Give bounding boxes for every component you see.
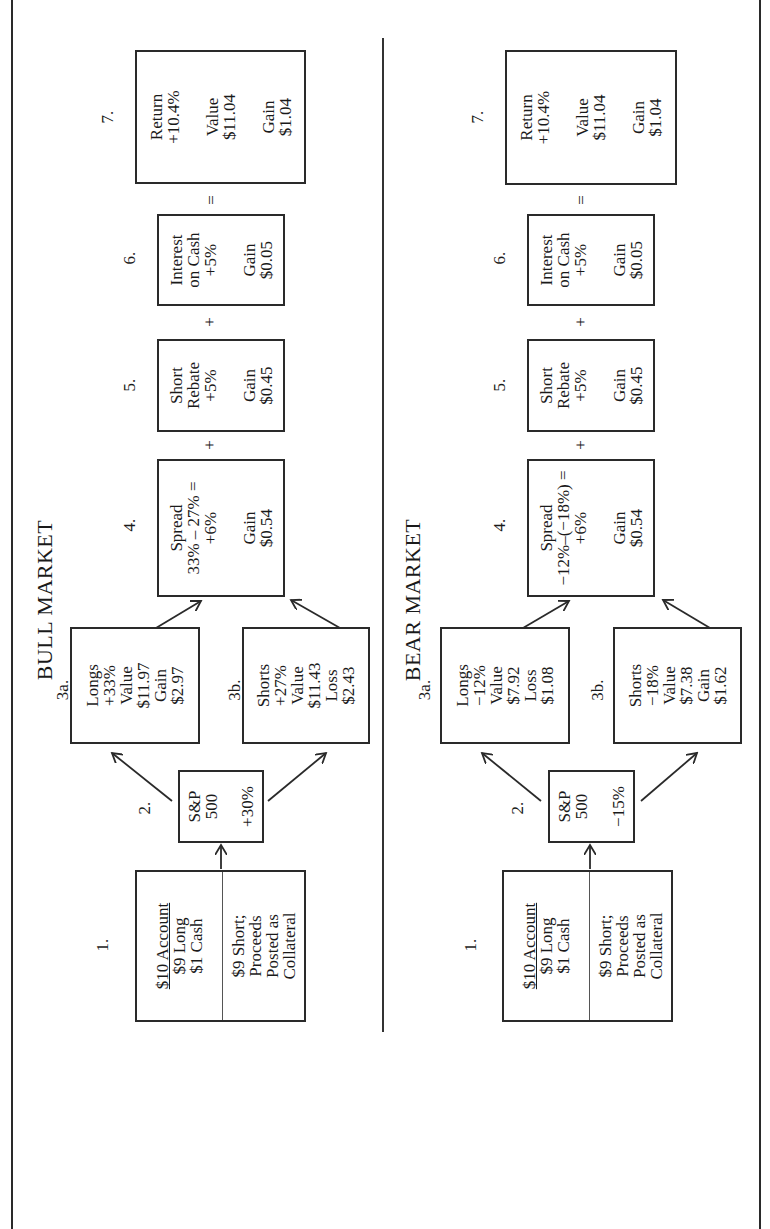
- interest-box: Interest on Cash +5% Gain $0.05: [527, 214, 655, 306]
- return-box: Return +10.4% Value $11.04 Gain $1.04: [135, 50, 306, 184]
- account-box-bottom: $9 Short; Proceeds Posted as Collateral: [590, 872, 671, 1020]
- equals-operator: =: [572, 195, 592, 205]
- step-1-label: 1.: [93, 939, 113, 952]
- step-3b-label: 3b.: [588, 679, 608, 700]
- rebate-result: Gain: [611, 369, 628, 402]
- account-line: Posted as: [264, 914, 281, 978]
- account-line: Collateral: [281, 912, 298, 979]
- shorts-line: $11.43: [306, 662, 323, 708]
- sp500-name: 500: [203, 790, 220, 822]
- short-rebate-box: Short Rebate +5% Gain $0.45: [527, 339, 655, 432]
- interest-line: on Cash: [555, 232, 572, 287]
- account-line: Posted as: [631, 914, 648, 978]
- rebate-line: Rebate: [555, 362, 572, 409]
- shorts-line: −18%: [644, 665, 661, 706]
- spread-box: Spread 33% – 27% = +6% Gain $0.54: [157, 459, 285, 597]
- rebate-line: +5%: [572, 369, 589, 401]
- interest-result: Gain: [611, 243, 628, 276]
- interest-line: Interest: [538, 235, 555, 286]
- arrow-icon: [482, 753, 541, 801]
- panel-title: BEAR MARKET: [400, 519, 426, 682]
- account-line: $1 Cash: [188, 918, 205, 973]
- return-line: +10.4%: [535, 91, 552, 145]
- spread-line: Spread: [168, 504, 185, 551]
- spread-result: $0.54: [258, 509, 275, 547]
- arrow-icon: [641, 753, 697, 801]
- step-3a-label: 3a.: [415, 680, 435, 700]
- shorts-line: Value: [289, 666, 306, 705]
- step-4-label: 4.: [490, 519, 510, 532]
- shorts-line: Value: [661, 666, 678, 705]
- spread-result: $0.54: [628, 509, 645, 547]
- return-gain: $1.04: [647, 98, 664, 136]
- arrow-icon: [268, 753, 326, 801]
- longs-line: −12%: [471, 665, 488, 706]
- longs-line: Gain: [152, 669, 169, 702]
- interest-line: Interest: [168, 235, 185, 286]
- return-value: Value: [574, 98, 591, 137]
- step-1-label: 1.: [461, 939, 481, 952]
- shorts-box: Shorts −18% Value $7.38 Gain $1.62: [613, 627, 742, 744]
- rebate-result: $0.45: [258, 366, 275, 404]
- longs-line: Longs: [84, 664, 101, 707]
- frame-border-bottom: [759, 0, 761, 1229]
- sp500-name: 500: [573, 790, 590, 822]
- spread-result: Gain: [611, 511, 628, 544]
- step-6-label: 6.: [490, 252, 510, 265]
- return-gain: Gain: [630, 101, 647, 134]
- rebate-line: Rebate: [185, 362, 202, 409]
- interest-line: +5%: [572, 244, 589, 276]
- plus-operator: +: [571, 440, 591, 450]
- return-box: Return +10.4% Value $11.04 Gain $1.04: [505, 50, 677, 185]
- arrow-icon: [663, 600, 710, 628]
- frame-border-top: [11, 0, 13, 1229]
- account-box-top: $10 Account $9 Long $1 Cash: [137, 872, 223, 1020]
- interest-line: on Cash: [185, 232, 202, 287]
- longs-line: Value: [118, 666, 135, 705]
- spread-line: +6%: [572, 512, 589, 544]
- arrow-icon: [156, 601, 201, 628]
- spread-line: Spread: [538, 504, 555, 551]
- account-box: $10 Account $9 Long $1 Cash $9 Short; Pr…: [135, 870, 306, 1022]
- longs-line: $1.08: [539, 666, 556, 704]
- diagram-stage: BULL MARKET 1. $10 Account $9 Long $1 Ca…: [0, 0, 770, 1229]
- arrow-icon: [112, 753, 172, 801]
- shorts-line: $7.38: [678, 666, 695, 704]
- arrow-icon: [291, 600, 340, 628]
- shorts-line: +27%: [272, 665, 289, 706]
- return-value: Value: [204, 98, 221, 137]
- sp500-name: S&P: [556, 790, 573, 822]
- account-line: $9 Short;: [597, 915, 614, 978]
- longs-line: Loss: [522, 669, 539, 701]
- sp500-name: S&P: [186, 790, 203, 822]
- account-line: $9 Long: [538, 917, 555, 974]
- rebate-line: Short: [168, 367, 185, 404]
- longs-line: $7.92: [505, 666, 522, 704]
- account-line: $9 Long: [171, 917, 188, 974]
- equals-operator: =: [202, 195, 222, 205]
- longs-line: $2.97: [169, 666, 186, 704]
- spread-line: −12%–(−18%) =: [555, 470, 572, 585]
- rebate-line: Short: [538, 367, 555, 404]
- longs-line: $11.97: [135, 662, 152, 708]
- sp500-change: +30%: [239, 786, 256, 827]
- shorts-box: Shorts +27% Value $11.43 Loss $2.43: [242, 627, 370, 744]
- account-heading: $10 Account: [521, 903, 538, 989]
- shorts-line: $1.62: [712, 666, 729, 704]
- step-2-label: 2.: [135, 802, 155, 815]
- account-line: Collateral: [648, 912, 665, 979]
- arrow-icon: [523, 601, 569, 628]
- rebate-result: Gain: [241, 369, 258, 402]
- step-7-label: 7.: [468, 111, 488, 124]
- return-gain: Gain: [260, 100, 277, 133]
- return-gain: $1.04: [277, 98, 294, 136]
- shorts-line: Shorts: [627, 664, 644, 707]
- longs-box: Longs −12% Value $7.92 Loss $1.08: [440, 627, 570, 744]
- plus-operator: +: [200, 440, 220, 450]
- interest-result: $0.05: [258, 241, 275, 279]
- account-line: $9 Short;: [230, 915, 247, 978]
- plus-operator: +: [200, 317, 220, 327]
- spread-box: Spread −12%–(−18%) = +6% Gain $0.54: [527, 459, 655, 597]
- return-line: +10.4%: [165, 90, 182, 144]
- account-box: $10 Account $9 Long $1 Cash $9 Short; Pr…: [502, 870, 673, 1022]
